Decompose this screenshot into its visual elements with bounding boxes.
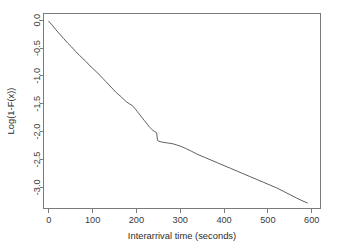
- x-tick-label-1: 100: [85, 215, 100, 225]
- y-tick-label-1: -0.5: [32, 40, 42, 56]
- chart-figure: 0100200300400500600 0.0-0.5-1.0-1.5-2.0-…: [0, 0, 338, 249]
- y-tick-label-3: -1.5: [32, 96, 42, 112]
- x-tick-label-6: 600: [304, 215, 319, 225]
- y-tick-label-6: -3.0: [32, 179, 42, 195]
- log-survival-chart: 0100200300400500600 0.0-0.5-1.0-1.5-2.0-…: [0, 0, 338, 249]
- y-tick-label-2: -1.0: [32, 68, 42, 84]
- y-tick-label-0: 0.0: [32, 14, 42, 27]
- x-axis-title: Interarrival time (seconds): [128, 230, 236, 241]
- x-tick-label-2: 200: [129, 215, 144, 225]
- y-tick-labels: 0.0-0.5-1.0-1.5-2.0-2.5-3.0: [32, 14, 42, 195]
- x-tick-label-0: 0: [46, 215, 51, 225]
- x-tick-label-3: 300: [173, 215, 188, 225]
- x-tick-label-4: 400: [216, 215, 231, 225]
- y-tick-label-4: -2.0: [32, 124, 42, 140]
- y-tick-label-5: -2.5: [32, 152, 42, 168]
- x-tick-label-5: 500: [260, 215, 275, 225]
- y-axis-title: Log(1-F(x)): [5, 88, 16, 135]
- chart-background: [0, 0, 338, 249]
